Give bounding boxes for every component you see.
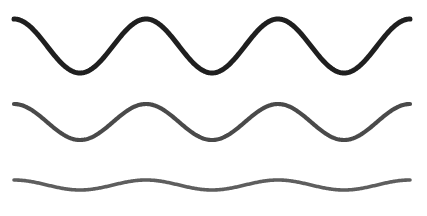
wave-figure bbox=[0, 0, 427, 216]
wave-canvas bbox=[0, 0, 427, 216]
figure-background bbox=[0, 0, 427, 216]
